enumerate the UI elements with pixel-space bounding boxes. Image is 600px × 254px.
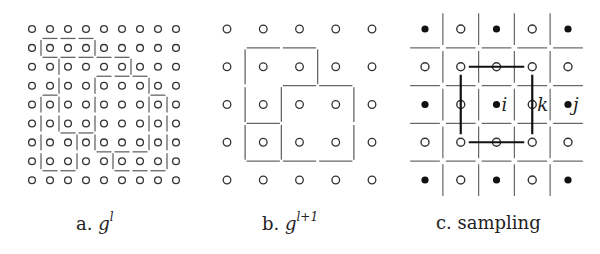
grid-node xyxy=(65,63,72,70)
grid-node xyxy=(223,176,231,184)
grid-node xyxy=(47,177,54,184)
grid-node xyxy=(119,120,126,127)
grid-node xyxy=(368,138,376,146)
node-label-i: i xyxy=(502,94,508,115)
grid-node xyxy=(47,82,54,89)
grid-node xyxy=(296,25,304,33)
grid-node xyxy=(47,139,54,146)
grid-node xyxy=(155,63,162,70)
grid-node xyxy=(47,120,54,127)
grid-node xyxy=(223,138,231,146)
grid-node xyxy=(47,26,54,33)
grid-node xyxy=(368,63,376,71)
sampled-node xyxy=(493,176,500,183)
grid-node xyxy=(65,101,72,108)
grid-node xyxy=(83,120,90,127)
grid-node xyxy=(155,120,162,127)
grid-node xyxy=(173,177,180,184)
grid-node xyxy=(65,82,72,89)
grid-node xyxy=(101,45,108,52)
caption-c-text: sampling xyxy=(458,212,541,233)
grid-node xyxy=(47,101,54,108)
grid-node xyxy=(137,45,144,52)
grid-node xyxy=(101,26,108,33)
grid-node xyxy=(528,176,536,184)
grid-node xyxy=(155,45,162,52)
grid-node xyxy=(29,101,36,108)
grid-node xyxy=(29,82,36,89)
grid-node xyxy=(119,177,126,184)
grid-node xyxy=(332,101,340,109)
grid-node xyxy=(296,63,304,71)
grid-node xyxy=(119,45,126,52)
grid-node xyxy=(173,120,180,127)
grid-node xyxy=(65,177,72,184)
grid-node xyxy=(119,63,126,70)
grid-node xyxy=(83,26,90,33)
grid-node xyxy=(101,177,108,184)
grid-node xyxy=(457,176,465,184)
grid-node xyxy=(47,45,54,52)
grid-node xyxy=(83,63,90,70)
grid-node xyxy=(29,158,36,165)
grid-node xyxy=(368,25,376,33)
caption-a-prefix: a. xyxy=(76,213,92,234)
sampled-node xyxy=(493,101,500,108)
grid-node xyxy=(83,139,90,146)
grid-node xyxy=(65,139,72,146)
grid-node xyxy=(173,158,180,165)
caption-a-symbol: g xyxy=(98,213,110,234)
caption-b-prefix: b. xyxy=(262,213,279,234)
caption-c-prefix: c. xyxy=(436,212,452,233)
grid-node xyxy=(223,25,231,33)
grid-node xyxy=(173,45,180,52)
sampled-node xyxy=(493,25,500,32)
grid-node xyxy=(332,63,340,71)
grid-node xyxy=(259,63,267,71)
grid-node xyxy=(83,177,90,184)
panel-c-sampling: ikj xyxy=(410,13,583,196)
grid-node xyxy=(137,26,144,33)
grid-node xyxy=(101,139,108,146)
grid-node xyxy=(119,101,126,108)
grid-node xyxy=(137,82,144,89)
grid-node xyxy=(29,177,36,184)
panel-b-grid-gl1 xyxy=(223,25,376,184)
grid-node xyxy=(101,82,108,89)
grid-node xyxy=(65,158,72,165)
grid-node xyxy=(65,26,72,33)
grid-node xyxy=(223,63,231,71)
grid-node xyxy=(65,45,72,52)
sampled-node xyxy=(564,25,571,32)
grid-node xyxy=(119,158,126,165)
grid-node xyxy=(155,82,162,89)
sampled-node xyxy=(564,101,571,108)
grid-node xyxy=(155,26,162,33)
node-label-k: k xyxy=(537,94,548,115)
grid-node xyxy=(137,120,144,127)
grid-node xyxy=(368,176,376,184)
sampled-node xyxy=(421,25,428,32)
grid-node xyxy=(296,138,304,146)
caption-c: c. sampling xyxy=(436,212,541,233)
grid-node xyxy=(173,139,180,146)
grid-node xyxy=(29,63,36,70)
grid-node xyxy=(29,120,36,127)
grid-node xyxy=(332,176,340,184)
grid-node xyxy=(155,177,162,184)
grid-node xyxy=(65,120,72,127)
grid-node xyxy=(119,139,126,146)
grid-node xyxy=(173,26,180,33)
grid-node xyxy=(564,138,572,146)
grid-node xyxy=(83,101,90,108)
grid-node xyxy=(528,25,536,33)
grid-node xyxy=(296,176,304,184)
grid-node xyxy=(173,101,180,108)
grid-node xyxy=(47,158,54,165)
grid-node xyxy=(223,101,231,109)
grid-node xyxy=(137,63,144,70)
grid-node xyxy=(259,138,267,146)
grid-node xyxy=(155,139,162,146)
grid-node xyxy=(259,176,267,184)
grid-node xyxy=(101,101,108,108)
